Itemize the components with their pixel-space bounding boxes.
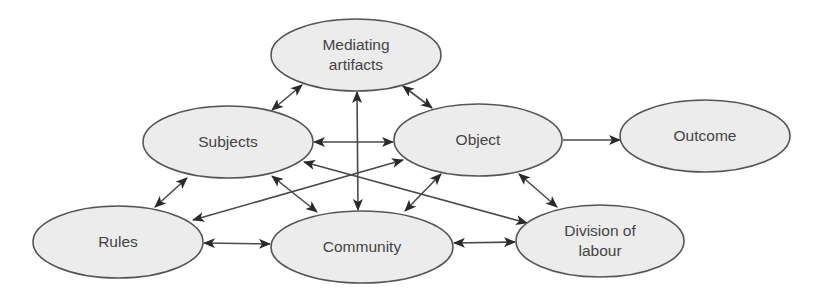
node-label: artifacts — [329, 56, 384, 73]
edge-object-community — [405, 174, 441, 211]
node-label: Mediating — [322, 36, 389, 53]
node-label: Subjects — [198, 133, 258, 150]
node-label: Object — [456, 131, 501, 148]
node-rules: Rules — [33, 206, 203, 278]
node-object: Object — [394, 104, 562, 176]
node-outcome: Outcome — [620, 100, 790, 172]
nodes: MediatingartifactsSubjectsObjectOutcomeR… — [33, 19, 790, 283]
node-division: Division oflabour — [516, 205, 684, 277]
edge-community-division — [454, 242, 515, 243]
node-label: Outcome — [674, 127, 737, 144]
node-label: Rules — [98, 233, 138, 250]
node-mediating: Mediatingartifacts — [271, 19, 441, 91]
edge-mediating-object — [403, 86, 432, 108]
node-ellipse — [271, 19, 441, 91]
edge-subjects-community — [272, 176, 317, 212]
edge-subjects-rules — [155, 178, 187, 207]
edge-mediating-subjects — [272, 85, 302, 110]
activity-system-diagram: MediatingartifactsSubjectsObjectOutcomeR… — [0, 0, 821, 304]
node-ellipse — [516, 205, 684, 277]
node-subjects: Subjects — [143, 106, 313, 178]
edge-object-division — [519, 174, 557, 207]
node-community: Community — [271, 211, 453, 283]
edge-rules-community — [204, 243, 270, 244]
node-label: Community — [323, 238, 402, 255]
node-label: Division of — [564, 222, 636, 239]
node-label: labour — [578, 242, 621, 259]
edge-mediating-community — [357, 92, 358, 210]
